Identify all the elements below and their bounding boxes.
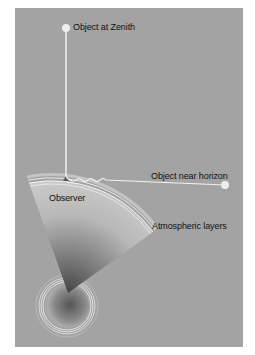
zenith-label: Object at Zenith: [73, 22, 135, 32]
horizon-object-dot: [221, 181, 229, 189]
zenith-object-dot: [62, 24, 70, 32]
earth-wedge: [29, 181, 153, 293]
atmosphere-label: Atmospheric layers: [152, 221, 227, 231]
horizon-label: Object near horizon: [151, 171, 228, 181]
observer-label: Observer: [49, 193, 85, 203]
